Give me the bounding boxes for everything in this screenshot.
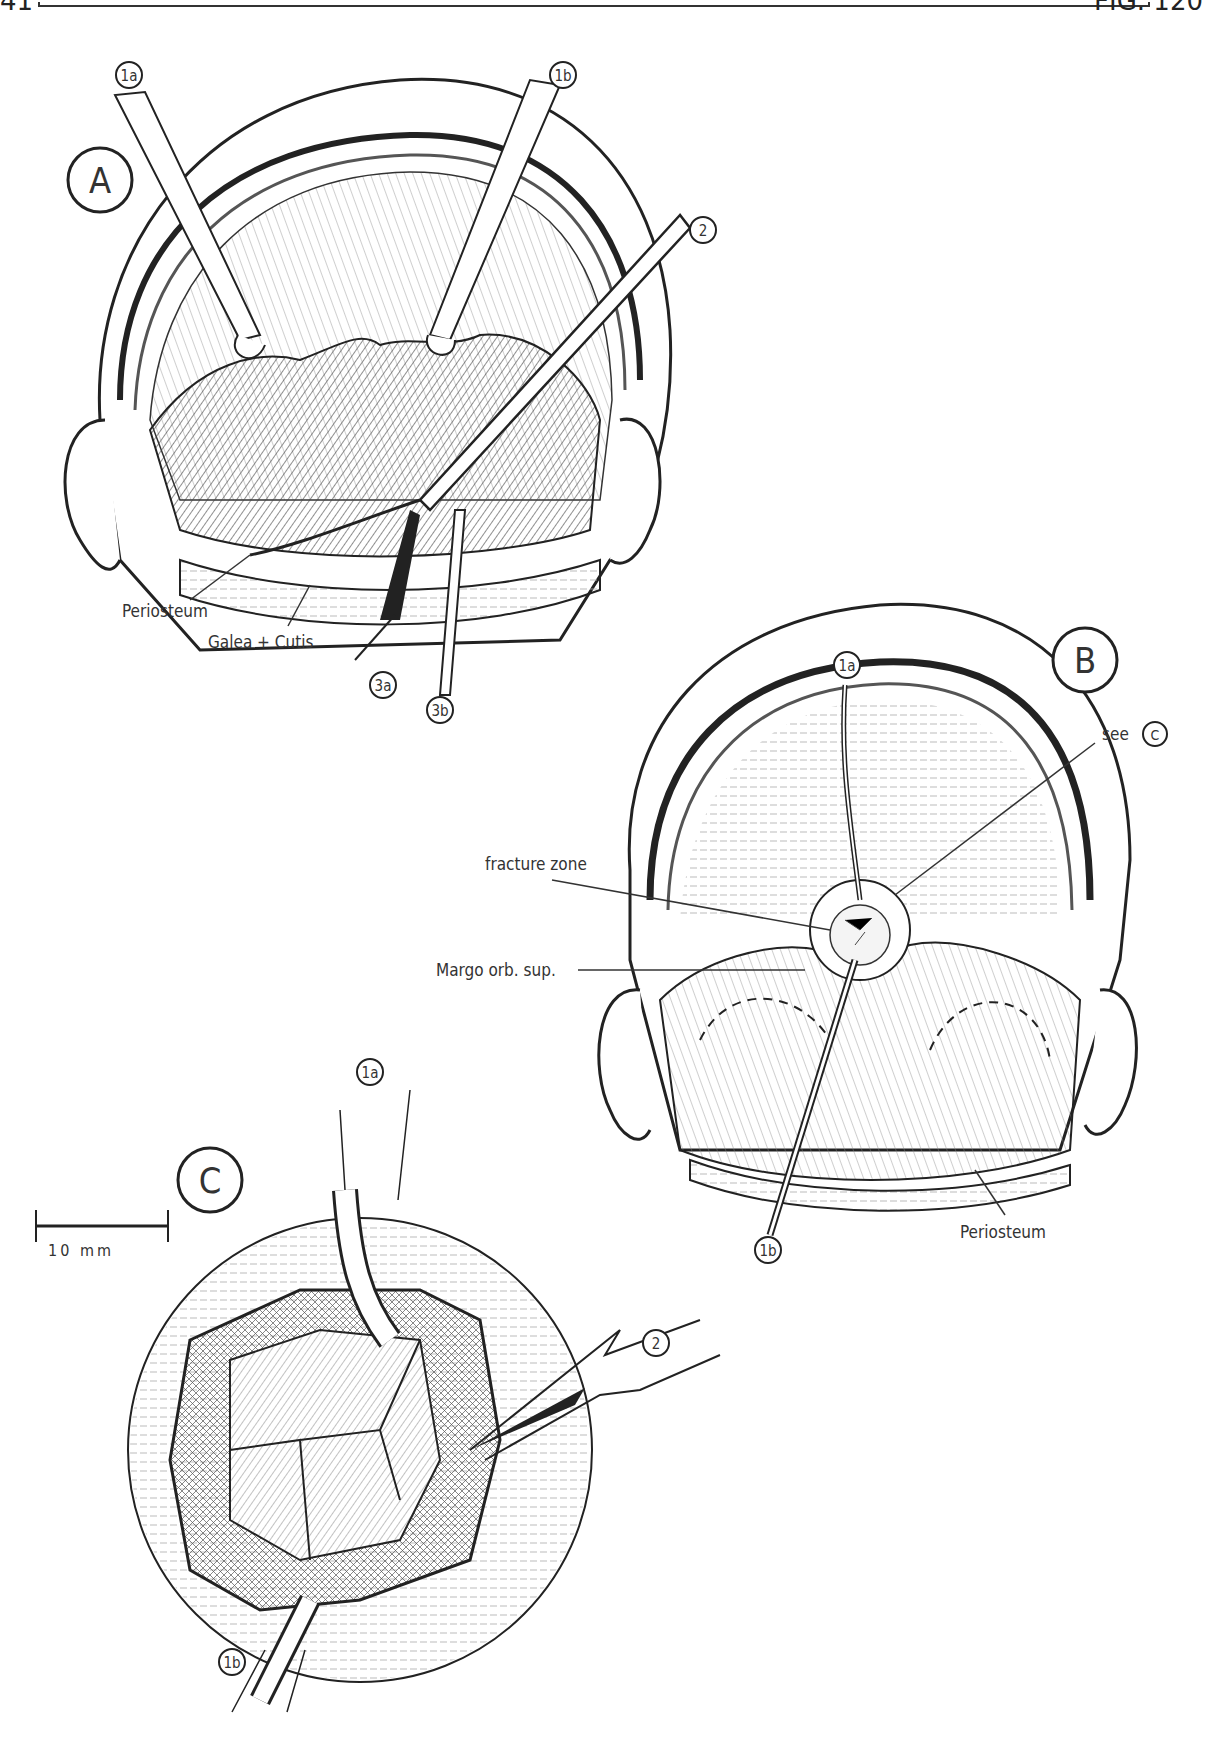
scale-bar: 10 mm	[36, 1210, 168, 1260]
label-periosteum-b: Periosteum	[960, 1222, 1046, 1242]
panel-label-c: C	[199, 1160, 222, 1201]
callout-2-a: 2	[699, 222, 708, 240]
callout-2-c: 2	[652, 1335, 661, 1353]
panel-a: A 1a 1b 2 3a 3b Periosteum Galea + Cutis	[65, 62, 716, 723]
label-galea-cutis: Galea + Cutis	[208, 632, 313, 652]
illustration-canvas: A 1a 1b 2 3a 3b Periosteum Galea + Cutis	[0, 0, 1209, 1764]
panel-label-a: A	[89, 160, 111, 201]
callout-3a: 3a	[375, 677, 392, 695]
panel-b: B 1a 1b see C fracture zone Margo orb. s…	[436, 604, 1167, 1263]
callout-3b: 3b	[431, 702, 448, 720]
callout-1a-b: 1a	[839, 657, 856, 675]
callout-1b-c: 1b	[223, 1654, 240, 1672]
label-fracture-zone: fracture zone	[485, 854, 587, 874]
callout-1a-c: 1a	[362, 1064, 379, 1082]
callout-1a-a: 1a	[121, 67, 138, 85]
label-periosteum-a: Periosteum	[122, 601, 208, 621]
callout-1b-a: 1b	[554, 67, 571, 85]
scale-bar-label: 10 mm	[48, 1241, 114, 1260]
label-see: see	[1102, 724, 1129, 744]
label-margo-orb-sup: Margo orb. sup.	[436, 960, 556, 980]
label-see-c: C	[1151, 727, 1160, 743]
panel-label-b: B	[1074, 640, 1096, 681]
callout-1b-b: 1b	[759, 1242, 776, 1260]
panel-c: C 1a 1b 2 10 mm	[36, 1059, 720, 1712]
